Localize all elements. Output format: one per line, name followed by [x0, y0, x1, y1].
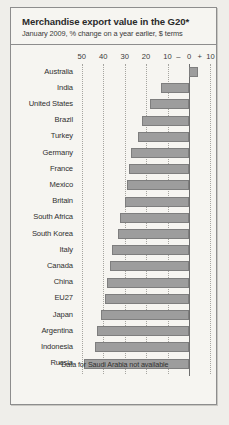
bar — [118, 229, 189, 239]
chart-row: South Korea — [11, 226, 216, 242]
category-label: South Korea — [32, 229, 73, 238]
category-label: Argentina — [41, 326, 73, 335]
bar — [97, 326, 189, 336]
chart-row: Indonesia — [11, 339, 216, 355]
category-label: Britain — [52, 196, 73, 205]
chart-row: Mexico — [11, 177, 216, 193]
x-tick-label: 0 — [187, 52, 191, 61]
category-label: China — [54, 277, 73, 286]
bar — [142, 116, 189, 126]
bar — [112, 245, 189, 255]
bar — [131, 148, 189, 158]
bar — [125, 197, 189, 207]
category-label: EU27 — [54, 293, 73, 302]
chart-row: Britain — [11, 194, 216, 210]
chart-row: China — [11, 275, 216, 291]
chart-row: Turkey — [11, 129, 216, 145]
category-label: United States — [29, 99, 73, 108]
category-label: France — [50, 164, 73, 173]
x-tick-label: 30 — [120, 52, 128, 61]
category-label: South Africa — [33, 212, 73, 221]
chart-row: Italy — [11, 242, 216, 258]
page-title: Merchandise export value in the G20* — [22, 16, 212, 27]
chart-row: Germany — [11, 145, 216, 161]
chart-row: Australia — [11, 64, 216, 80]
chart-subtitle: January 2009, % change on a year earlier… — [22, 29, 217, 38]
chart-row: South Africa — [11, 210, 216, 226]
bar — [138, 132, 189, 142]
category-label: Brazil — [55, 115, 73, 124]
chart-bars: AustraliaIndiaUnited StatesBrazilTurkeyG… — [11, 64, 216, 374]
chart-row: Argentina — [11, 323, 216, 339]
chart-row: United States — [11, 96, 216, 112]
chart-row: Japan — [11, 307, 216, 323]
chart-row: EU27 — [11, 291, 216, 307]
minus-sign-icon: – — [176, 52, 180, 61]
category-label: Mexico — [50, 180, 73, 189]
x-axis-tick-labels: 5040302010010–+ — [11, 52, 216, 64]
category-label: Japan — [53, 310, 73, 319]
bar — [105, 294, 189, 304]
chart-row: France — [11, 161, 216, 177]
bar — [101, 310, 189, 320]
x-tick-label: 10 — [163, 52, 171, 61]
chart-footnote: *Data for Saudi Arabia not available — [11, 360, 216, 369]
category-label: India — [57, 83, 73, 92]
x-tick-label: 10 — [206, 52, 214, 61]
bar — [161, 83, 189, 93]
bar — [129, 164, 189, 174]
chart-figure: Merchandise export value in the G20* Jan… — [10, 7, 217, 405]
x-tick-label: 20 — [142, 52, 150, 61]
category-label: Indonesia — [41, 342, 73, 351]
bar — [120, 213, 189, 223]
bar — [95, 342, 189, 352]
x-tick-label: 50 — [78, 52, 86, 61]
category-label: Turkey — [51, 131, 73, 140]
plus-sign-icon: + — [198, 52, 202, 61]
category-label: Italy — [60, 245, 73, 254]
bar — [150, 99, 189, 109]
chart-row: India — [11, 80, 216, 96]
category-label: Germany — [42, 148, 73, 157]
bar — [127, 180, 189, 190]
bar — [107, 278, 189, 288]
chart-plot-area: 5040302010010–+ AustraliaIndiaUnited Sta… — [11, 46, 216, 394]
chart-row: Brazil — [11, 113, 216, 129]
x-tick-label: 40 — [99, 52, 107, 61]
bar — [110, 261, 189, 271]
title-divider — [11, 44, 216, 45]
chart-row: Canada — [11, 258, 216, 274]
bar — [189, 67, 198, 77]
category-label: Canada — [47, 261, 73, 270]
category-label: Australia — [44, 67, 73, 76]
